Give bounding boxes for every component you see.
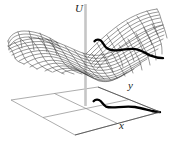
surface-wireframe-mesh — [8, 9, 167, 82]
y-axis-label: y — [128, 80, 133, 91]
figure-canvas — [0, 0, 172, 142]
base-axis-edges — [75, 87, 160, 135]
x-axis-edge — [75, 112, 160, 135]
saddle-potential-figure: U y x — [0, 0, 172, 142]
u-axis-label: U — [75, 3, 83, 14]
series-trajectory-projection — [94, 100, 160, 113]
trajectory-projection-path — [94, 100, 160, 113]
x-axis-label: x — [119, 120, 124, 131]
